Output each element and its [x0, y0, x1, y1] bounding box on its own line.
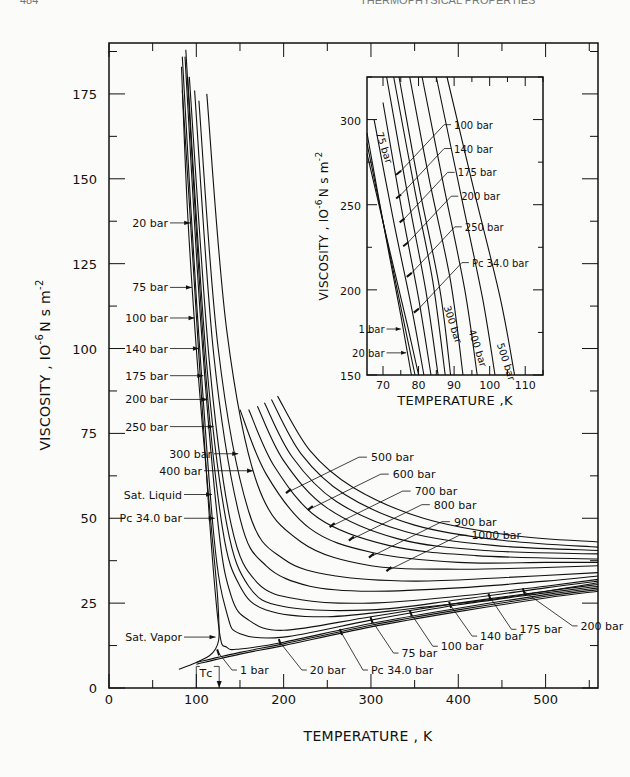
leader-line [290, 457, 367, 491]
y-tick-label: 200 [340, 285, 361, 298]
x-tick-label: 500 [533, 692, 558, 707]
y-tick-label: 150 [340, 370, 361, 383]
leader-line [411, 613, 438, 646]
arrow-icon [186, 285, 192, 289]
arrow-icon [308, 506, 313, 510]
arrow-icon [330, 523, 335, 527]
svg-text:VISCOSITY , IO-6N s m-2: VISCOSITY , IO-6N s m-2 [34, 279, 53, 450]
annotation-100-bar: 100 bar [441, 640, 484, 653]
x-tick-label: 0 [105, 692, 113, 707]
annotation-200-bar: 200 bar [125, 393, 168, 406]
x-tick-label: 100 [479, 379, 500, 392]
inset-ylabel-exp2: -2 [314, 152, 324, 162]
annotation-100-bar: 100 bar [454, 120, 494, 131]
annotation-200-bar: 200 bar [461, 191, 501, 202]
annotation-800-bar: 800 bar [434, 499, 477, 512]
main-y-axis-title: VISCOSITY , IO-6N s m-2 [34, 279, 53, 450]
x-tick-label: 400 [446, 692, 471, 707]
leader-line [372, 620, 399, 653]
annotation-p-c-34-0-bar: Pᴄ 34.0 bar [120, 512, 183, 525]
arrow-icon [210, 635, 216, 639]
annotation-175-bar: 175 bar [458, 167, 498, 178]
inset-plot: 708090100110 150200250300 100 bar140 bar… [300, 70, 550, 415]
ylabel-exp2: -2 [34, 279, 45, 290]
annotation-tc: Tᴄ [198, 667, 212, 680]
y-tick-label: 50 [80, 511, 97, 526]
inset-ylabel-main: VISCOSITY , IO [317, 209, 331, 301]
annotation-140-bar: 140 bar [125, 343, 168, 356]
inset-y-axis-title: VISCOSITY , IO-6N s m-2 [314, 152, 331, 301]
y-tick-label: 75 [80, 426, 97, 441]
annotation-p-c-34-0-bar: Pᴄ 34.0 bar [472, 258, 530, 269]
annotation-1-bar: 1 bar [240, 664, 269, 677]
y-tick-label: 25 [80, 596, 97, 611]
y-tick-label: 250 [340, 200, 361, 213]
x-tick-label: 80 [412, 379, 426, 392]
y-tick-label: 150 [72, 172, 97, 187]
arrow-icon [184, 221, 190, 225]
annotation-600-bar: 600 bar [393, 468, 436, 481]
x-tick-label: 200 [271, 692, 296, 707]
main-x-axis-title: TEMPERATURE , K [303, 728, 433, 744]
viscosity-figure: 0100200300400500 0255075100125150175 20 … [0, 0, 630, 777]
annotation-250-bar: 250 bar [125, 421, 168, 434]
annotation-100-bar: 100 bar [125, 312, 168, 325]
annotation-1000-bar: 1000 bar [471, 529, 521, 542]
y-tick-label: 125 [72, 257, 97, 272]
y-tick-label: 175 [72, 87, 97, 102]
annotation-900-bar: 900 bar [454, 516, 497, 529]
leader-line [280, 642, 307, 670]
arrow-icon [449, 602, 451, 608]
inset-ylabel-exp1: -6 [314, 199, 324, 209]
annotation-400-bar: 400 bar [159, 465, 202, 478]
annotation-75-bar: 75 bar [402, 647, 438, 660]
y-tick-label: 0 [89, 681, 97, 696]
arrow-icon [371, 617, 373, 623]
arrow-icon [410, 610, 412, 616]
ylabel-main: VISCOSITY , IO [37, 344, 53, 450]
annotation-500-bar: 500 bar [371, 451, 414, 464]
x-tick-label: 100 [184, 692, 209, 707]
arrow-icon [217, 681, 222, 688]
annotation-75-bar: 75 bar [132, 281, 168, 294]
annotation-p-c-34-0-bar: Pᴄ 34.0 bar [371, 664, 434, 677]
curve-1000-bar [278, 396, 599, 542]
annotation-140-bar: 140 bar [480, 630, 523, 643]
annotation-200-bar: 200 bar [581, 620, 624, 633]
annotation-250-bar: 250 bar [465, 222, 505, 233]
annotation-sat-vapor: Sat. Vapor [125, 631, 182, 644]
ylabel-exp1: -6 [34, 334, 45, 345]
annotation-20-bar: 20 bar [310, 664, 346, 677]
x-tick-label: 70 [376, 379, 390, 392]
svg-text:VISCOSITY , IO-6N s m-2: VISCOSITY , IO-6N s m-2 [314, 152, 331, 301]
annotation-1-bar: 1 bar [358, 324, 385, 335]
inset-x-axis-title: TEMPERATURE ,K [396, 393, 513, 408]
ylabel-unit: N s m [37, 290, 53, 332]
arrow-icon [349, 537, 354, 541]
annotation-175-bar: 175 bar [519, 623, 562, 636]
arrow-icon [369, 554, 374, 558]
x-tick-label: 90 [447, 379, 461, 392]
inset-ylabel-unit: N s m [317, 161, 331, 197]
annotation-sat-liquid: Sat. Liquid [124, 489, 182, 502]
annotation-175-bar: 175 bar [125, 370, 168, 383]
annotation-140-bar: 140 bar [454, 144, 494, 155]
arrow-icon [286, 489, 291, 493]
annotation-20-bar: 20 bar [352, 348, 385, 359]
arrow-icon [217, 649, 219, 655]
x-tick-label: 110 [515, 379, 536, 392]
annotation-700-bar: 700 bar [415, 485, 458, 498]
y-tick-label: 300 [340, 115, 361, 128]
x-tick-label: 300 [359, 692, 384, 707]
annotation-300-bar: 300 bar [169, 448, 212, 461]
annotation-20-bar: 20 bar [132, 217, 168, 230]
y-tick-label: 100 [72, 342, 97, 357]
